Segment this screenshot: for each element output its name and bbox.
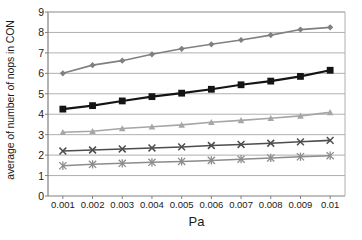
x-axis-tick-label: 0.006	[199, 200, 223, 210]
x-axis-tick-label: 0.002	[81, 200, 105, 210]
data-point-marker-square	[238, 81, 245, 88]
data-point-marker-square	[267, 78, 274, 85]
data-point-marker-square	[178, 90, 185, 97]
x-axis-tick-label: 0.005	[170, 200, 194, 210]
data-point-marker-square	[208, 86, 215, 93]
data-point-marker-square	[59, 106, 66, 113]
x-axis-tick-label: 0.009	[289, 200, 313, 210]
x-axis-title: Pa	[48, 214, 345, 229]
x-axis-tick-labels: 0.0010.0020.0030.0040.0050.0060.0070.008…	[0, 197, 362, 213]
x-axis-tick-label: 0.008	[259, 200, 283, 210]
x-axis-tick-label: 0.007	[229, 200, 253, 210]
x-axis-tick-label: 0.004	[140, 200, 164, 210]
data-point-marker-square	[149, 93, 156, 100]
data-point-marker-square	[89, 102, 96, 109]
data-point-marker-square	[327, 67, 334, 74]
data-point-marker-square	[297, 73, 304, 80]
chart-container: average of number of nops in CON 0123456…	[0, 0, 362, 240]
data-point-marker-square	[119, 98, 126, 105]
x-axis-tick-label: 0.001	[51, 200, 75, 210]
x-axis-tick-label: 0.01	[321, 200, 340, 210]
x-axis-tick-label: 0.003	[110, 200, 134, 210]
